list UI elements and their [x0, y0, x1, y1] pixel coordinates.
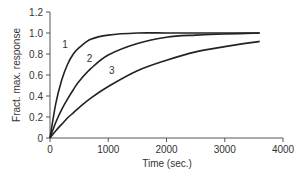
- y-axis-label: Fract. max. response: [11, 28, 22, 122]
- chart-container: 00.20.40.60.81.01.201000200030004000 123…: [0, 0, 302, 184]
- y-tick-label: 1.2: [29, 7, 43, 18]
- x-tick-label: 1000: [97, 144, 120, 155]
- y-tick-label: 0.2: [29, 112, 43, 123]
- series-group: [50, 33, 260, 138]
- x-tick-label: 4000: [272, 144, 295, 155]
- axes: 00.20.40.60.81.01.201000200030004000: [29, 7, 294, 156]
- curve-2: [50, 33, 260, 138]
- x-axis-label: Time (sec.): [142, 158, 192, 169]
- x-tick-label: 0: [47, 144, 53, 155]
- curve-label-2: 2: [87, 53, 93, 64]
- line-chart: 00.20.40.60.81.01.201000200030004000 123…: [0, 0, 302, 184]
- y-tick-label: 0: [37, 133, 43, 144]
- x-tick-label: 2000: [155, 144, 178, 155]
- y-tick-label: 0.4: [29, 91, 43, 102]
- curve-3: [50, 41, 260, 138]
- curve-label-1: 1: [62, 39, 68, 50]
- curve-1: [50, 33, 260, 138]
- y-tick-label: 0.8: [29, 49, 43, 60]
- x-tick-label: 3000: [214, 144, 237, 155]
- y-tick-label: 0.6: [29, 70, 43, 81]
- y-tick-label: 1.0: [29, 28, 43, 39]
- curve-label-3: 3: [109, 65, 115, 76]
